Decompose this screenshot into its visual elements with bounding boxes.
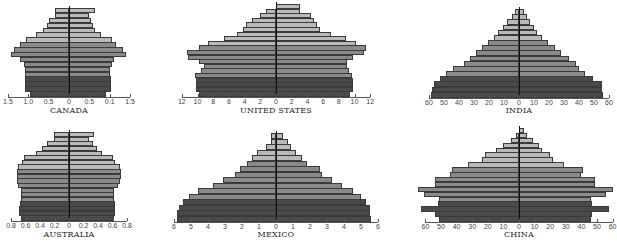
- bar-right: [519, 148, 542, 153]
- bar-left: [503, 25, 520, 31]
- x-tick: [444, 95, 445, 98]
- bar-right: [519, 157, 553, 162]
- x-tick-label: 8: [337, 98, 341, 105]
- bar-right: [69, 47, 123, 52]
- bar-right: [276, 205, 370, 211]
- x-tick: [293, 219, 294, 222]
- bar-right: [519, 87, 602, 93]
- x-tick-label: 8: [211, 98, 215, 105]
- x-tick: [519, 95, 520, 98]
- bar-right: [69, 23, 93, 28]
- bar-right: [519, 19, 530, 25]
- x-tick-label: 10: [530, 99, 538, 106]
- bar-left: [213, 183, 276, 189]
- x-tick-label: 0.4: [35, 222, 45, 229]
- x-tick: [370, 94, 371, 97]
- x-tick-label: 0: [67, 98, 71, 105]
- bar-left: [47, 141, 69, 146]
- x-tick-label: 4: [342, 223, 346, 230]
- x-tick-label: 0.6: [21, 222, 31, 229]
- bar-left: [196, 82, 276, 87]
- bar-right: [69, 18, 91, 23]
- bar-right: [276, 188, 353, 194]
- x-tick: [110, 94, 111, 97]
- bar-right: [69, 169, 121, 174]
- x-tick: [429, 95, 430, 98]
- bar-left: [470, 56, 520, 62]
- bar-right: [69, 67, 110, 72]
- bar-left: [252, 18, 276, 23]
- x-tick-label: 3: [325, 223, 329, 230]
- x-tick: [441, 219, 442, 222]
- center-line: [69, 130, 70, 220]
- bar-left: [208, 41, 276, 46]
- bar-right: [519, 61, 576, 67]
- bar-left: [452, 167, 519, 172]
- bar-left: [24, 62, 69, 67]
- x-tick-label: 1: [291, 223, 295, 230]
- x-tick: [310, 219, 311, 222]
- x-tick-label: 1.5: [125, 98, 135, 105]
- x-tick-label: 0.5: [44, 98, 54, 105]
- x-tick-label: 0.2: [50, 222, 60, 229]
- bar-right: [69, 132, 94, 137]
- x-tick-label: 20: [485, 99, 493, 106]
- bar-left: [47, 23, 69, 28]
- bar-left: [468, 162, 519, 167]
- x-tick: [229, 94, 230, 97]
- bar-left: [42, 146, 69, 151]
- x-tick: [609, 95, 610, 98]
- bar-right: [69, 192, 114, 197]
- x-tick-label: 2: [258, 98, 262, 105]
- x-tick-label: 60: [605, 99, 613, 106]
- bar-left: [177, 216, 276, 222]
- x-tick-label: 1.5: [3, 98, 13, 105]
- bar-left: [21, 188, 69, 193]
- x-tick-label: 5: [359, 223, 363, 230]
- bar-right: [276, 144, 291, 150]
- bar-right: [276, 87, 353, 92]
- x-tick-label: 0: [274, 98, 278, 105]
- bar-left: [55, 13, 69, 18]
- bar-right: [519, 50, 561, 56]
- bar-right: [519, 45, 555, 51]
- bar-left: [453, 66, 519, 72]
- bar-right: [69, 86, 111, 91]
- x-tick: [191, 219, 192, 222]
- x-tick: [260, 94, 261, 97]
- bar-left: [498, 30, 519, 36]
- bar-left: [17, 174, 69, 179]
- bar-right: [276, 68, 349, 73]
- x-tick: [339, 94, 340, 97]
- x-tick-label: 30: [562, 223, 570, 230]
- bar-left: [189, 194, 276, 200]
- bar-right: [519, 187, 613, 192]
- x-tick: [276, 94, 277, 97]
- bar-left: [512, 14, 520, 20]
- bar-left: [36, 32, 69, 37]
- bar-right: [276, 199, 366, 205]
- bar-right: [69, 57, 114, 62]
- bar-left: [17, 178, 69, 183]
- bar-left: [224, 36, 276, 41]
- x-tick: [174, 219, 175, 222]
- bar-left: [496, 148, 519, 153]
- x-tick: [594, 95, 595, 98]
- bar-left: [196, 87, 276, 92]
- x-tick: [49, 94, 50, 97]
- bar-right: [276, 161, 307, 167]
- bar-right: [276, 27, 320, 32]
- bar-left: [266, 9, 276, 14]
- bar-left: [435, 211, 519, 216]
- bar-right: [276, 36, 346, 41]
- bar-left: [435, 182, 519, 187]
- x-tick-label: 3: [223, 223, 227, 230]
- bar-left: [21, 192, 69, 197]
- x-tick: [198, 94, 199, 97]
- bar-left: [179, 205, 276, 211]
- bar-right: [519, 162, 564, 167]
- bar-left: [240, 166, 276, 172]
- bar-left: [54, 132, 69, 137]
- bar-left: [247, 161, 276, 167]
- x-tick: [519, 219, 520, 222]
